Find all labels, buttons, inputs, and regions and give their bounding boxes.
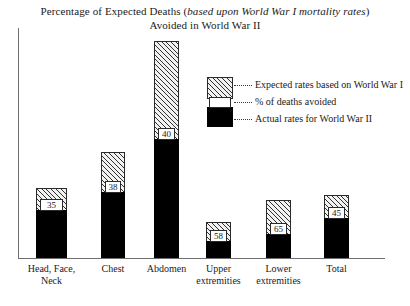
legend-swatch-expected	[207, 77, 233, 99]
bar-segment-actual	[324, 218, 349, 258]
plot-area: 35Head, Face,Neck38Chest40Abdomen58Upper…	[0, 0, 410, 306]
legend-leader-expected	[234, 85, 252, 87]
legend-swatch-actual	[207, 107, 233, 127]
legend-label-avoided: % of deaths avoided	[255, 96, 336, 108]
bar-segment-actual	[266, 234, 291, 258]
legend-leader-avoided	[234, 102, 252, 104]
legend-key-bar	[207, 77, 233, 127]
legend-swatch-avoided	[209, 97, 231, 108]
bar-value-label: 58	[210, 230, 227, 242]
x-axis-label-line-2: Neck	[12, 275, 92, 287]
legend-label-actual: Actual rates for World War II	[255, 113, 372, 125]
legend-leader-actual	[234, 119, 252, 121]
bar-segment-actual	[101, 192, 125, 258]
bar-value-label: 45	[328, 207, 345, 219]
legend-label-expected: Expected rates based on World War I	[255, 79, 403, 91]
bar-segment-actual	[36, 210, 67, 258]
bar-value-label: 65	[270, 223, 287, 235]
bar-value-label: 38	[105, 181, 121, 193]
chart-container: Percentage of Expected Deaths (based upo…	[0, 0, 410, 306]
bar-chest: 38	[101, 152, 125, 258]
bar-value-label: 35	[40, 199, 63, 211]
bar-value-label: 40	[158, 128, 175, 140]
bar-lower-extremities: 65	[266, 200, 291, 258]
x-axis-label-line-1: Total	[297, 263, 377, 275]
bar-segment-actual	[154, 139, 179, 258]
bar-segment-actual	[206, 241, 231, 258]
bar-total: 45	[324, 195, 349, 258]
x-axis-label-total: Total	[297, 263, 377, 275]
bar-head-face-neck: 35	[36, 188, 67, 258]
bar-abdomen: 40	[154, 41, 179, 258]
bar-upper-extremities: 58	[206, 222, 231, 258]
x-axis-label-line-2: extremities	[239, 275, 319, 287]
